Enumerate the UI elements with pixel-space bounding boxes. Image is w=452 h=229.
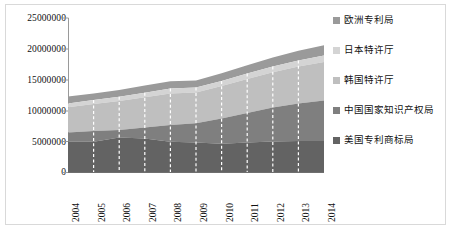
legend-item-uspto[interactable]: 美国专利商标局: [333, 134, 448, 146]
x-tick-label: 2008: [174, 203, 184, 222]
x-tick-label: 2011: [251, 203, 261, 222]
x-tick-label: 2006: [123, 203, 133, 222]
legend-label: 美国专利商标局: [344, 135, 414, 145]
x-tick-label: 2014: [328, 203, 338, 222]
legend-item-jpo[interactable]: 日本特许厅: [333, 44, 448, 56]
legend-swatch-icon: [333, 137, 340, 144]
legend-item-epo[interactable]: 欧洲专利局: [333, 14, 448, 26]
legend-label: 欧洲专利局: [344, 15, 394, 25]
legend-label: 中国国家知识产权局: [344, 105, 434, 115]
legend-item-sipo[interactable]: 中国国家知识产权局: [333, 104, 448, 116]
x-tick-label: 2009: [200, 203, 210, 222]
legend-label: 韩国特许厅: [344, 75, 394, 85]
legend-swatch-icon: [333, 47, 340, 54]
x-tick-label: 2013: [302, 203, 312, 222]
legend-swatch-icon: [333, 107, 340, 114]
legend-item-kipo[interactable]: 韩国特许厅: [333, 74, 448, 86]
x-tick-label: 2010: [226, 203, 236, 222]
legend-swatch-icon: [333, 17, 340, 24]
x-tick-label: 2012: [277, 203, 287, 222]
x-tick-label: 2005: [98, 203, 108, 222]
chart-legend: 欧洲专利局 日本特许厅 韩国特许厅 中国国家知识产权局 美国专利商标局: [333, 14, 448, 164]
x-tick-label: 2004: [72, 203, 82, 222]
x-tick-label: 2007: [149, 203, 159, 222]
legend-label: 日本特许厅: [344, 45, 394, 55]
legend-swatch-icon: [333, 77, 340, 84]
